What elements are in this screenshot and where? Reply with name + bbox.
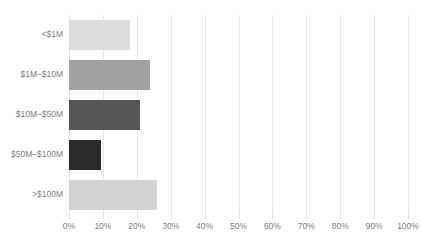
category-label-$10M–$50M: $10M–$50M: [0, 109, 63, 119]
bar-$10M–$50M[interactable]: [69, 100, 140, 130]
category-label->$100M: >$100M: [0, 189, 63, 199]
tick-mark-0%: [69, 215, 70, 219]
tick-mark-100%: [408, 215, 409, 219]
bar-$50M–$100M[interactable]: [69, 140, 101, 170]
bar-row: [69, 175, 408, 215]
tick-mark-20%: [137, 215, 138, 219]
bar-row: [69, 95, 408, 135]
bar-row: [69, 55, 408, 95]
bar-row: [69, 135, 408, 175]
tick-mark-30%: [171, 215, 172, 219]
tick-mark-60%: [272, 215, 273, 219]
gridline-100%: [408, 15, 409, 215]
tick-mark-40%: [205, 215, 206, 219]
bar-<$1M[interactable]: [69, 20, 130, 50]
x-tick-label-100%: 100%: [388, 221, 423, 231]
bar-chart: <$1M$1M–$10M$10M–$50M$50M–$100M>$100M 0%…: [0, 0, 423, 239]
bar-row: [69, 15, 408, 55]
category-label-$50M–$100M: $50M–$100M: [0, 149, 63, 159]
tick-mark-70%: [306, 215, 307, 219]
tick-mark-50%: [239, 215, 240, 219]
category-label-<$1M: <$1M: [0, 29, 63, 39]
chart-title-remnant: [120, 0, 300, 3]
tick-mark-90%: [374, 215, 375, 219]
category-label-$1M–$10M: $1M–$10M: [0, 69, 63, 79]
bar->$100M[interactable]: [69, 180, 157, 210]
tick-mark-10%: [103, 215, 104, 219]
bar-$1M–$10M[interactable]: [69, 60, 150, 90]
tick-mark-80%: [340, 215, 341, 219]
plot-area: [69, 15, 408, 215]
